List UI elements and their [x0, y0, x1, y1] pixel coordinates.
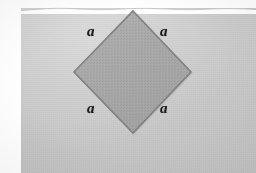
side-label-top-left: a	[87, 24, 95, 39]
figure-root: a a a a	[0, 0, 256, 173]
rotated-square-figure	[0, 0, 256, 173]
side-label-bottom-left: a	[87, 101, 95, 116]
side-label-bottom-right: a	[160, 101, 168, 116]
side-label-top-right: a	[160, 24, 168, 39]
